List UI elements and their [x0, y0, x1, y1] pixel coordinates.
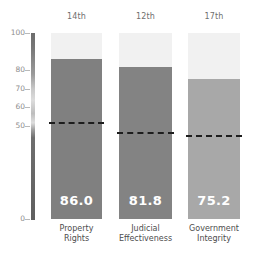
y-axis-tick-mark: [25, 89, 30, 90]
y-axis-tick-label: 80: [3, 66, 25, 74]
bar-value-label-0: 86.0: [51, 194, 102, 208]
y-axis-tick-mark: [25, 33, 30, 34]
world-average-line-2: [186, 135, 242, 137]
y-axis-tick-label: 0: [3, 215, 25, 223]
bar-value-label-2: 75.2: [188, 194, 240, 208]
y-axis-tick-mark: [25, 219, 30, 220]
y-axis-tick-label: 60: [3, 103, 25, 111]
category-label-1: Judicial Effectiveness: [107, 224, 184, 243]
category-label-2: Government Integrity: [176, 224, 252, 243]
y-axis-tick-label: 70: [3, 85, 25, 93]
world-average-line-0: [49, 122, 104, 124]
rank-label-2: 17th: [188, 12, 240, 22]
rank-label-0: 14th: [51, 12, 102, 22]
y-axis-tick-mark: [25, 70, 30, 71]
world-average-line-1: [117, 132, 174, 134]
rank-label-1: 12th: [119, 12, 172, 22]
y-axis-tick-mark: [25, 107, 30, 108]
y-axis-tick-label: 50: [3, 122, 25, 130]
category-label-0: Property Rights: [39, 224, 114, 243]
y-axis-tick-mark: [25, 126, 30, 127]
bar-chart: 05060708010014th86.0Property Rights12th8…: [0, 0, 264, 263]
bar-value-label-1: 81.8: [119, 194, 172, 208]
y-axis-tick-label: 100: [3, 29, 25, 37]
y-axis-spine: [31, 33, 35, 220]
